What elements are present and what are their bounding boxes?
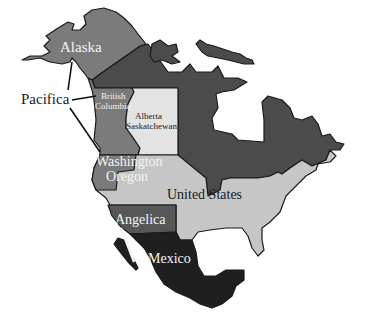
label-mexico: Mexico: [148, 251, 191, 266]
region-mexico: [114, 232, 244, 308]
label-pacifica: Pacifica: [21, 91, 70, 107]
label-alaska: Alaska: [60, 39, 102, 55]
label-united-states: United States: [167, 187, 242, 202]
label-british-columbia-line2: Columbia: [95, 101, 131, 111]
label-british-columbia-line1: British: [101, 91, 126, 101]
label-oregon: Oregon: [106, 169, 148, 184]
label-alberta: Alberta: [135, 111, 162, 121]
label-washington: Washington: [96, 154, 163, 169]
label-angelica: Angelica: [115, 212, 166, 227]
island-east: [196, 40, 254, 64]
north-america-map: Alaska British Columbia Alberta Saskatch…: [0, 0, 366, 327]
island-west: [150, 40, 180, 64]
label-saskatchewan: Saskatchewan: [126, 121, 177, 131]
